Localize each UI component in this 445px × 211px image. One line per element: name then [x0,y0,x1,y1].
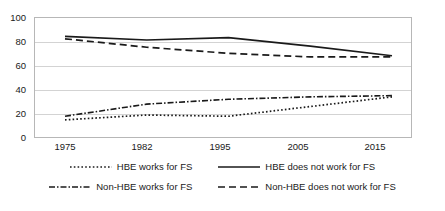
legend-item-nonhbe-not-works: Non-HBE does not work for FS [218,181,395,193]
x-axis-labels: 1975 1982 1995 2005 2015 [0,141,445,155]
legend-label-nonhbe-not-works: Non-HBE does not work for FS [265,181,395,193]
legend-label-hbe-not-works: HBE does not work for FS [265,161,375,173]
y-tick-20: 20 [0,109,26,119]
x-tick-2015: 2015 [355,141,395,152]
legend-item-hbe-not-works: HBE does not work for FS [218,161,375,173]
chart-legend: HBE works for FS HBE does not work for F… [0,158,445,206]
legend-swatch-dotted [70,162,112,172]
x-tick-1995: 1995 [200,141,240,152]
legend-row-2: Non-HBE works for FS Non-HBE does not wo… [0,178,445,196]
y-tick-80: 80 [0,37,26,47]
legend-swatch-dashdot [49,182,91,192]
line-chart: 100 80 60 40 20 0 1975 1982 1995 2005 20… [0,0,445,211]
y-tick-40: 40 [0,85,26,95]
legend-item-nonhbe-works: Non-HBE works for FS [49,181,192,193]
legend-label-hbe-works: HBE works for FS [117,161,193,173]
y-tick-60: 60 [0,61,26,71]
series-hbe-does-not-work-for-fs [65,36,392,55]
x-tick-1982: 1982 [122,141,162,152]
legend-swatch-dashed [218,182,260,192]
x-tick-2005: 2005 [278,141,318,152]
legend-row-1: HBE works for FS HBE does not work for F… [0,158,445,176]
series-non-hbe-works-for-fs [65,96,392,117]
series-non-hbe-does-not-work-for-fs [65,39,392,57]
y-tick-100: 100 [0,13,26,23]
legend-label-nonhbe-works: Non-HBE works for FS [96,181,192,193]
legend-swatch-solid [218,162,260,172]
series-layer [34,17,412,138]
x-tick-1975: 1975 [45,141,85,152]
legend-item-hbe-works: HBE works for FS [70,161,193,173]
